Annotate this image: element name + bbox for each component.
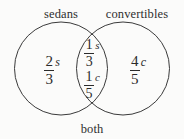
region-sedans-only: 2 3 s: [26, 53, 78, 87]
fraction-numerator: 1: [85, 70, 94, 85]
venn-diagram: sedans convertibles both 2 3 s 1 3 s 1: [0, 0, 184, 139]
fraction: 1 3: [84, 38, 94, 69]
label-sedans: sedans: [28, 8, 94, 21]
variable-label: s: [55, 55, 60, 70]
fraction-numerator: 2: [44, 54, 54, 70]
label-convertibles: convertibles: [95, 8, 179, 21]
fraction-numerator: 1: [85, 38, 94, 53]
variable-label: c: [95, 71, 100, 83]
fraction: 2 3: [44, 54, 54, 87]
fraction-denominator: 5: [85, 86, 94, 101]
region-convertibles-only: 4 5 c: [112, 53, 164, 87]
variable-label: s: [95, 39, 99, 51]
fraction-denominator: 3: [85, 54, 94, 69]
fraction-convertibles-only: 4 5 c: [130, 54, 146, 87]
fraction: 1 5: [84, 70, 94, 101]
fraction-sedans-only: 2 3 s: [44, 54, 60, 87]
fraction-both-sedans: 1 3 s: [84, 38, 99, 69]
fraction-both-convertibles: 1 5 c: [84, 70, 100, 101]
fraction-denominator: 5: [130, 71, 140, 87]
region-both: 1 3 s 1 5 c: [76, 34, 108, 104]
fraction-denominator: 3: [44, 71, 54, 87]
fraction-numerator: 4: [130, 54, 140, 70]
variable-label: c: [141, 55, 146, 70]
fraction: 4 5: [130, 54, 140, 87]
label-both: both: [62, 123, 122, 136]
